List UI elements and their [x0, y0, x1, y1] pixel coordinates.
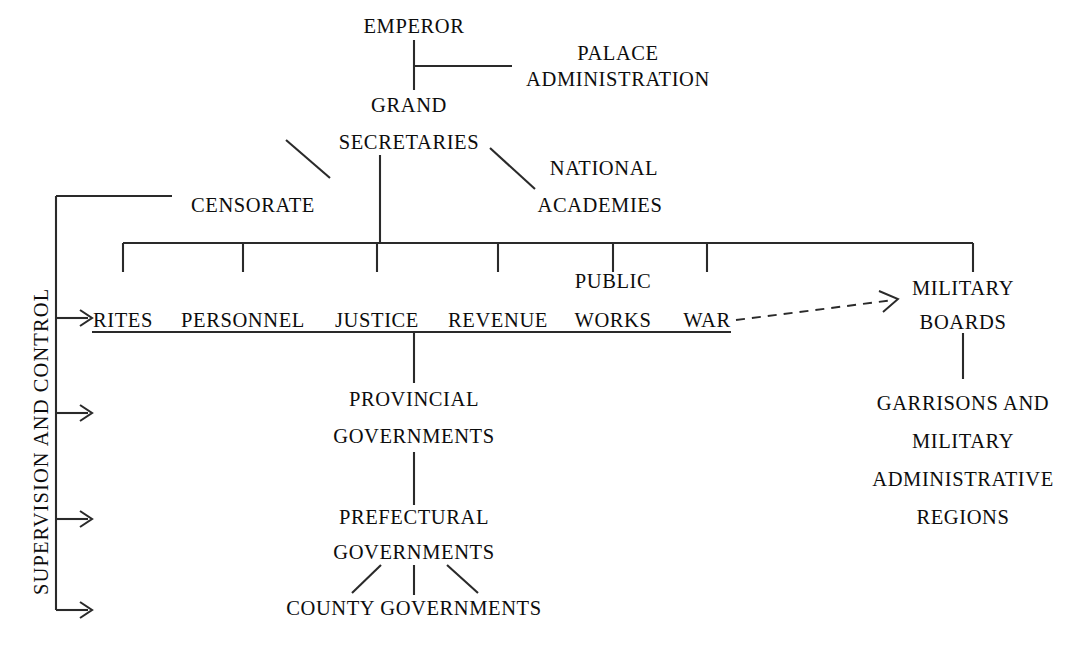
node-military-boards-line2: BOARDS	[920, 309, 1007, 335]
line-prefectural-to-county-right	[447, 565, 478, 593]
node-emperor: EMPEROR	[363, 13, 464, 39]
board-war: WAR	[683, 309, 730, 332]
node-emperor-label: EMPEROR	[363, 13, 464, 39]
board-personnel: PERSONNEL	[181, 309, 305, 332]
dashed-link-arrow-head	[879, 291, 898, 312]
node-censorate-label: CENSORATE	[191, 192, 315, 218]
node-grand-secretaries-line2: SECRETARIES	[339, 129, 480, 155]
node-palace-administration-line1: PALACE	[526, 40, 710, 66]
org-chart-diagram: SUPERVISION AND CONTROL EMPEROR PALACE A…	[0, 0, 1081, 657]
node-provincial-line2: GOVERNMENTS	[333, 423, 495, 449]
node-garrisons-line2: MILITARY	[912, 428, 1014, 454]
node-county-label: COUNTY GOVERNMENTS	[286, 595, 541, 621]
node-boards-label: BOARDS	[920, 309, 1007, 335]
node-garrisons-line4: REGIONS	[916, 504, 1009, 530]
board-justice: JUSTICE	[335, 309, 419, 332]
supervision-arrow-1-head	[80, 310, 92, 326]
node-grand-label: GRAND	[371, 92, 447, 118]
node-provincial-line1: PROVINCIAL	[349, 386, 479, 412]
node-national-academies-line1: NATIONAL	[550, 155, 658, 181]
node-grand-secretaries-line1: GRAND	[371, 92, 447, 118]
node-garrisons-administrative-label: ADMINISTRATIVE	[872, 466, 1054, 492]
supervision-arrow-3-head	[80, 511, 92, 527]
supervision-arrow-4-head	[80, 602, 92, 618]
node-provincial-label: PROVINCIAL	[349, 386, 479, 412]
node-academies-label-2: ACADEMIES	[538, 192, 663, 218]
node-prefectural-label: PREFECTURAL	[339, 504, 489, 530]
node-national-label: NATIONAL	[550, 155, 658, 181]
node-secretaries-label: SECRETARIES	[339, 129, 480, 155]
node-public-works-upper: PUBLIC	[575, 268, 652, 294]
line-secretaries-to-censorate	[286, 140, 330, 178]
node-prefectural-line2: GOVERNMENTS	[333, 539, 495, 565]
node-county-governments: COUNTY GOVERNMENTS	[286, 595, 541, 621]
node-public-label: PUBLIC	[575, 268, 652, 294]
line-prefectural-to-county-left	[352, 565, 381, 593]
board-works: WORKS	[574, 309, 651, 332]
node-censorate: CENSORATE	[191, 192, 315, 218]
line-secretaries-to-national-academies	[490, 148, 535, 189]
board-revenue: REVENUE	[448, 309, 548, 332]
board-rites: RITES	[93, 309, 153, 332]
node-military-label: MILITARY	[912, 275, 1014, 301]
node-palace-administration-line2: ADMINISTRATION	[526, 66, 710, 92]
node-palace-administration: PALACE ADMINISTRATION	[526, 40, 710, 92]
node-prefectural-line1: PREFECTURAL	[339, 504, 489, 530]
node-garrisons-regions-label: REGIONS	[916, 504, 1009, 530]
supervision-arrow-2-head	[80, 405, 92, 421]
node-academies-line2: ACADEMIES	[538, 192, 663, 218]
node-military-boards-line1: MILITARY	[912, 275, 1014, 301]
node-garrisons-military-label: MILITARY	[912, 428, 1014, 454]
node-provincial-governments-label: GOVERNMENTS	[333, 423, 495, 449]
node-garrisons-line1: GARRISONS AND	[877, 390, 1049, 416]
node-garrisons-and-label: GARRISONS AND	[877, 390, 1049, 416]
dashed-link-war-to-military-boards	[736, 300, 894, 320]
node-prefectural-governments-label: GOVERNMENTS	[333, 539, 495, 565]
supervision-and-control-label: SUPERVISION AND CONTROL	[30, 288, 53, 595]
node-garrisons-line3: ADMINISTRATIVE	[872, 466, 1054, 492]
